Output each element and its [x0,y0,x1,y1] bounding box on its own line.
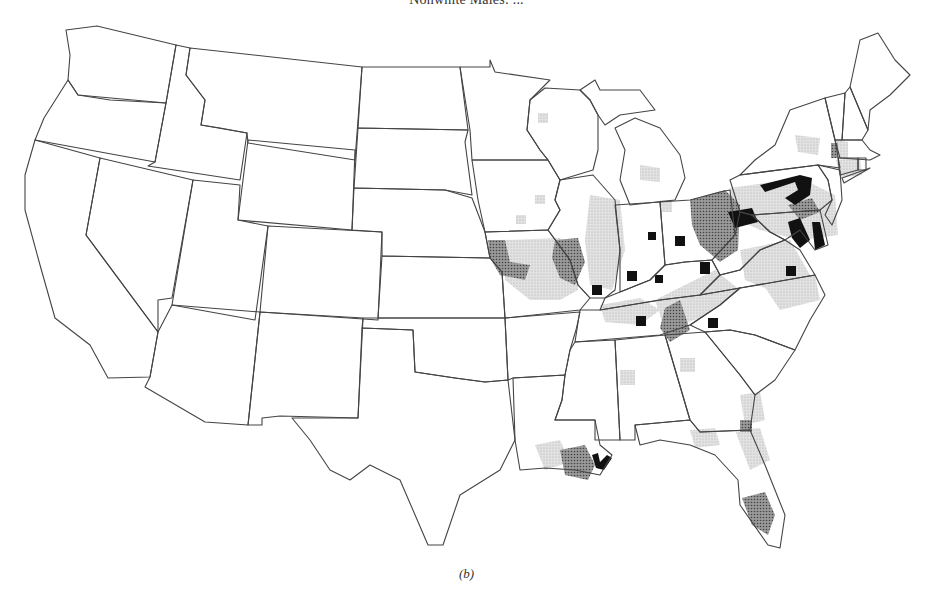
state-alabama [615,335,690,440]
state-montana [186,48,362,160]
state-washington [66,26,176,103]
state-colorado [260,226,382,320]
state-michigan-lower [615,118,685,205]
state-south-dakota [354,128,472,195]
state-south-carolina [705,330,795,395]
state-kansas [378,256,505,318]
state-idaho [148,45,247,180]
figure-caption: (b) [0,566,933,582]
state-utah [172,180,268,320]
state-oregon [35,80,166,162]
state-wyoming [238,140,355,230]
state-arkansas [505,312,580,380]
state-nebraska [352,188,490,258]
state-new-york [740,98,840,175]
state-california [25,140,158,378]
state-new-hampshire [842,87,868,140]
state-maine [850,33,910,130]
state-georgia [665,332,755,432]
us-map [0,0,933,599]
state-new-mexico [248,312,363,425]
state-mississippi [555,340,620,440]
state-wisconsin [527,88,598,180]
state-arizona [145,305,260,425]
state-oklahoma [362,318,508,382]
state-texas [292,328,515,545]
state-north-dakota [358,67,468,130]
state-michigan-upper [580,80,655,125]
